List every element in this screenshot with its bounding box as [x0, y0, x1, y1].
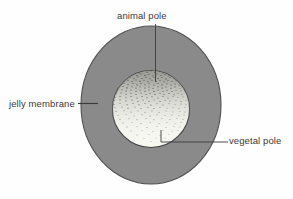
egg-diagram-figure: animal pole jelly membrane vegetal pole	[0, 0, 293, 199]
label-animal-pole: animal pole	[117, 11, 167, 21]
label-jelly-membrane: jelly membrane	[9, 99, 75, 109]
label-vegetal-pole: vegetal pole	[229, 136, 281, 146]
